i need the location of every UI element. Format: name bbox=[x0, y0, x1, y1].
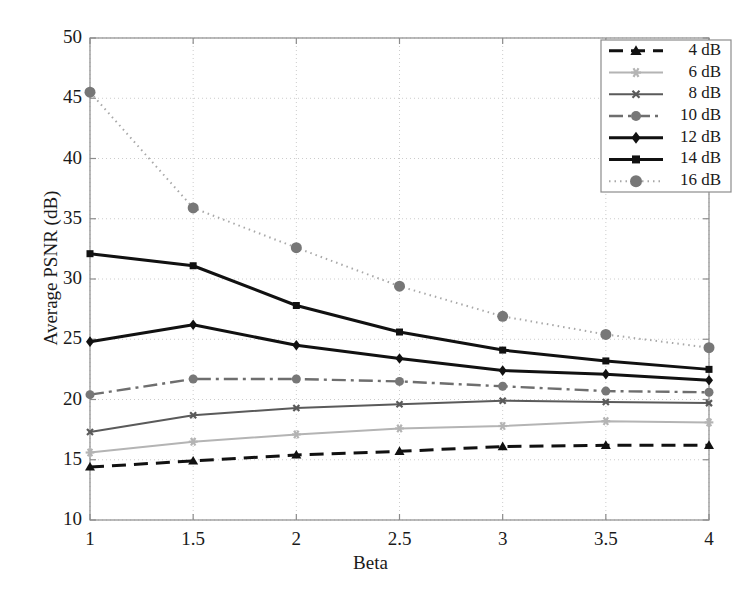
x-tick-label: 1 bbox=[60, 528, 120, 550]
legend-entry: 16 dB bbox=[669, 170, 721, 190]
y-tick-label: 15 bbox=[38, 448, 82, 470]
y-tick-label: 45 bbox=[38, 86, 82, 108]
legend-entry: 14 dB bbox=[669, 148, 721, 168]
x-axis-title: Beta bbox=[0, 552, 741, 574]
y-tick-label: 35 bbox=[38, 207, 82, 229]
legend-entry: 12 dB bbox=[669, 127, 721, 147]
x-tick-label: 2 bbox=[266, 528, 326, 550]
legend-entry: 8 dB bbox=[669, 83, 721, 103]
x-tick-label: 1.5 bbox=[163, 528, 223, 550]
x-tick-label: 3 bbox=[473, 528, 533, 550]
x-tick-label: 4 bbox=[679, 528, 739, 550]
x-tick-label: 3.5 bbox=[576, 528, 636, 550]
y-tick-label: 25 bbox=[38, 327, 82, 349]
x-tick-label: 2.5 bbox=[370, 528, 430, 550]
legend-entry: 10 dB bbox=[669, 105, 721, 125]
y-tick-label: 30 bbox=[38, 267, 82, 289]
legend-entry: 4 dB bbox=[669, 40, 721, 60]
chart-figure: Average PSNR (dB) Beta 10152025303540455… bbox=[0, 0, 741, 593]
legend-entry: 6 dB bbox=[669, 62, 721, 82]
plot-canvas bbox=[0, 0, 741, 593]
y-tick-label: 50 bbox=[38, 26, 82, 48]
y-tick-label: 10 bbox=[38, 508, 82, 530]
y-tick-label: 40 bbox=[38, 147, 82, 169]
y-tick-label: 20 bbox=[38, 388, 82, 410]
